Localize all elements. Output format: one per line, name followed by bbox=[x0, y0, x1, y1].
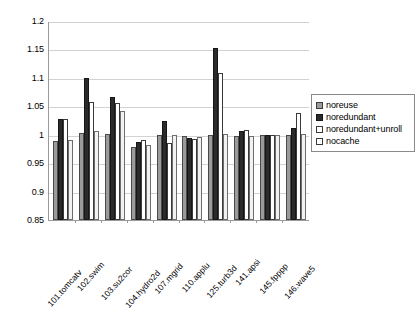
legend-swatch-icon bbox=[316, 102, 323, 109]
legend-swatch-icon bbox=[316, 138, 323, 145]
bar-group bbox=[76, 22, 102, 220]
x-label-cell: 104.hydro2d bbox=[126, 224, 152, 284]
y-tick-label: 0.95 bbox=[0, 159, 44, 168]
y-tick-label: 1.05 bbox=[0, 102, 44, 111]
bar[interactable] bbox=[94, 131, 99, 220]
legend: noreuse noredundant noredundant+unroll n… bbox=[311, 94, 415, 152]
y-tick-label: 0.85 bbox=[0, 216, 44, 225]
bar-group bbox=[154, 22, 180, 220]
bar[interactable] bbox=[249, 136, 254, 220]
bar[interactable] bbox=[223, 134, 228, 220]
legend-item[interactable]: noredundant bbox=[316, 111, 411, 123]
bar[interactable] bbox=[120, 111, 125, 220]
x-axis-labels: 101.tomcatv102.swim103.su2cor104.hydro2d… bbox=[48, 224, 309, 284]
legend-item[interactable]: nocache bbox=[316, 135, 411, 147]
bar-groups bbox=[50, 22, 309, 220]
bar[interactable] bbox=[197, 137, 202, 220]
plot-area bbox=[48, 22, 309, 221]
bar-group bbox=[50, 22, 76, 220]
bar-group bbox=[128, 22, 154, 220]
bar[interactable] bbox=[68, 140, 73, 220]
axis-tick bbox=[127, 220, 128, 223]
axis-tick bbox=[75, 220, 76, 223]
legend-label: noredundant bbox=[326, 112, 375, 122]
y-tick-label: 1.1 bbox=[0, 74, 44, 83]
axis-tick bbox=[282, 220, 283, 223]
legend-swatch-icon bbox=[316, 114, 323, 121]
y-tick-label: 0.9 bbox=[0, 188, 44, 197]
y-tick-label: 1 bbox=[0, 131, 44, 140]
bar[interactable] bbox=[146, 145, 151, 220]
x-label-cell: 101.tomcatv bbox=[48, 224, 74, 284]
legend-item[interactable]: noreuse bbox=[316, 99, 411, 111]
legend-label: nocache bbox=[326, 136, 359, 146]
bar[interactable] bbox=[172, 135, 177, 220]
y-tick-label: 1.2 bbox=[0, 17, 44, 26]
x-tick-label: 146.wave5 bbox=[282, 264, 317, 301]
axis-tick bbox=[153, 220, 154, 223]
legend-label: noreuse bbox=[326, 100, 358, 110]
axis-tick bbox=[204, 220, 205, 223]
y-tick-label: 1.15 bbox=[0, 45, 44, 54]
legend-swatch-icon bbox=[316, 126, 323, 133]
x-label-cell: 145.fpppp bbox=[257, 224, 283, 284]
bar[interactable] bbox=[275, 135, 280, 220]
axis-tick bbox=[230, 220, 231, 223]
axis-tick bbox=[256, 220, 257, 223]
legend-label: noredundant+unroll bbox=[326, 124, 402, 134]
x-label-cell: 102.swim bbox=[74, 224, 100, 284]
x-label-cell: 110.applu bbox=[178, 224, 204, 284]
x-label-cell: 125.turb3d bbox=[205, 224, 231, 284]
y-axis: 0.850.90.9511.051.11.151.2 bbox=[0, 0, 44, 284]
axis-tick bbox=[179, 220, 180, 223]
x-label-cell: 103.su2cor bbox=[100, 224, 126, 284]
bar-group bbox=[283, 22, 309, 220]
bar-group bbox=[180, 22, 206, 220]
x-label-cell: 107.mgrid bbox=[152, 224, 178, 284]
x-label-cell: 141.apsi bbox=[231, 224, 257, 284]
bar-group bbox=[231, 22, 257, 220]
legend-item[interactable]: noredundant+unroll bbox=[316, 123, 411, 135]
bar[interactable] bbox=[301, 134, 306, 220]
axis-tick bbox=[101, 220, 102, 223]
x-label-cell: 146.wave5 bbox=[283, 224, 309, 284]
bar-group bbox=[257, 22, 283, 220]
bar-group bbox=[102, 22, 128, 220]
bar-group bbox=[205, 22, 231, 220]
